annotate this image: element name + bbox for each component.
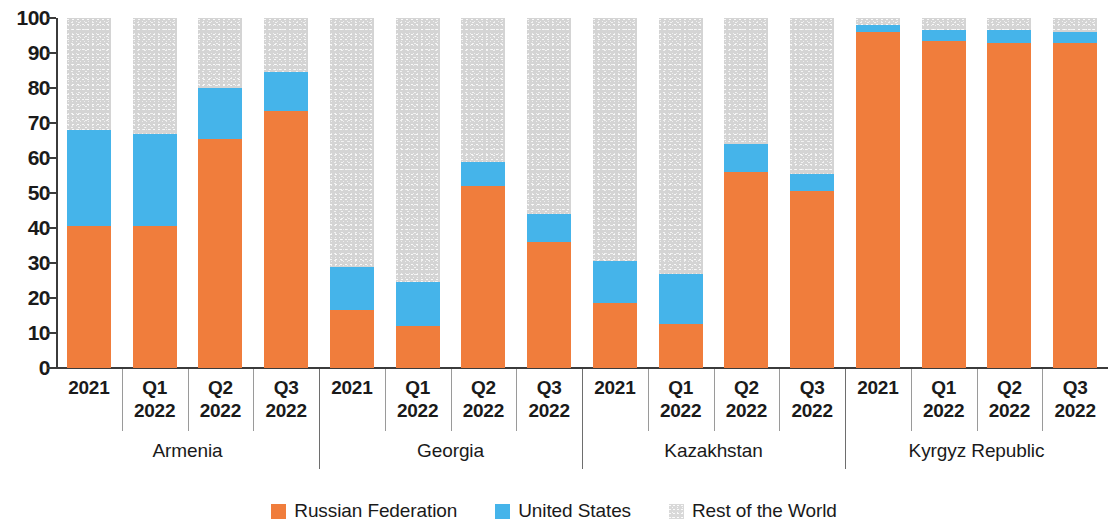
y-axis-tick-label: 90	[0, 41, 50, 65]
period-divider	[714, 369, 715, 431]
legend-item[interactable]: Russian Federation	[271, 500, 457, 522]
period-label-line1: Q1	[142, 376, 167, 399]
bar-segment-rest-of-the-world	[922, 18, 966, 30]
stacked-bar[interactable]	[856, 18, 900, 368]
bar-slot	[385, 18, 451, 368]
period-divider	[779, 369, 780, 431]
bar-segment-united-states	[724, 144, 768, 172]
bar-slot	[188, 18, 254, 368]
period-label-line2: 2022	[528, 399, 569, 422]
stacked-bar[interactable]	[659, 18, 703, 368]
y-axis-tick-mark	[47, 262, 56, 264]
period-label-line2: 2022	[397, 399, 438, 422]
bar-group-georgia	[319, 18, 582, 368]
period-label: Q22022	[977, 369, 1043, 431]
period-label-line2: 2022	[989, 399, 1030, 422]
legend-item[interactable]: Rest of the World	[669, 500, 837, 522]
bar-segment-united-states	[133, 134, 177, 227]
period-label-line1: Q2	[997, 376, 1022, 399]
bar-group-kyrgyz-republic	[845, 18, 1108, 368]
bar-slot	[911, 18, 977, 368]
stacked-bar[interactable]	[790, 18, 834, 368]
y-axis-tick-mark	[47, 297, 56, 299]
stacked-bar[interactable]	[987, 18, 1031, 368]
x-axis-country-labels: ArmeniaGeorgiaKazakhstanKyrgyz Republic	[56, 440, 1108, 478]
bar-segment-united-states	[396, 282, 440, 326]
bar-segment-rest-of-the-world	[198, 18, 242, 88]
stacked-bar[interactable]	[724, 18, 768, 368]
stacked-bar[interactable]	[461, 18, 505, 368]
period-label-line2: 2022	[265, 399, 306, 422]
period-label-line2: 2022	[134, 399, 175, 422]
period-label-line1: Q3	[274, 376, 299, 399]
period-label-line2: 2022	[791, 399, 832, 422]
y-axis-tick-mark	[47, 17, 56, 19]
bar-segment-united-states	[987, 30, 1031, 42]
period-label-line1: 2021	[68, 376, 109, 399]
y-axis-tick-mark	[47, 227, 56, 229]
period-label: 2021	[319, 369, 385, 431]
bar-slot	[1042, 18, 1108, 368]
bar-slot	[451, 18, 517, 368]
bar-slot	[845, 18, 911, 368]
period-divider	[1042, 369, 1043, 431]
bar-segment-rest-of-the-world	[987, 18, 1031, 30]
period-label-line1: Q1	[931, 376, 956, 399]
bar-segment-russian-federation	[987, 43, 1031, 369]
y-axis-tick-label: 30	[0, 251, 50, 275]
period-label: Q32022	[253, 369, 319, 431]
stacked-bar[interactable]	[133, 18, 177, 368]
bar-segment-united-states	[922, 30, 966, 41]
period-label: Q32022	[1042, 369, 1108, 431]
y-axis-tick-label: 80	[0, 76, 50, 100]
bar-segment-rest-of-the-world	[527, 18, 571, 214]
bar-slot	[516, 18, 582, 368]
stacked-bar[interactable]	[593, 18, 637, 368]
y-axis-tick-mark	[47, 157, 56, 159]
legend-swatch-icon	[669, 504, 684, 519]
stacked-bar[interactable]	[330, 18, 374, 368]
bar-group-armenia	[56, 18, 319, 368]
period-label-line1: Q3	[1063, 376, 1088, 399]
legend-item[interactable]: United States	[495, 500, 631, 522]
bar-slot	[56, 18, 122, 368]
bar-segment-united-states	[856, 25, 900, 32]
bar-segment-russian-federation	[396, 326, 440, 368]
bar-segment-russian-federation	[198, 139, 242, 368]
bar-segment-russian-federation	[1053, 43, 1097, 369]
bar-slot	[779, 18, 845, 368]
period-divider	[253, 369, 254, 431]
legend-label: Rest of the World	[692, 500, 837, 522]
bar-slot	[319, 18, 385, 368]
bar-segment-united-states	[461, 162, 505, 187]
y-axis-tick-label: 100	[0, 6, 50, 30]
bar-segment-rest-of-the-world	[593, 18, 637, 261]
bar-segment-rest-of-the-world	[133, 18, 177, 134]
period-label: Q32022	[779, 369, 845, 431]
period-label-line1: 2021	[331, 376, 372, 399]
y-axis-tick-mark	[47, 87, 56, 89]
stacked-bar[interactable]	[1053, 18, 1097, 368]
bar-segment-rest-of-the-world	[67, 18, 111, 130]
stacked-bar[interactable]	[922, 18, 966, 368]
y-axis-tick-label: 70	[0, 111, 50, 135]
bar-segment-rest-of-the-world	[724, 18, 768, 144]
period-label-line1: Q2	[734, 376, 759, 399]
y-axis-tick-label: 20	[0, 286, 50, 310]
stacked-bar[interactable]	[527, 18, 571, 368]
period-label-line1: Q3	[537, 376, 562, 399]
bar-segment-russian-federation	[790, 191, 834, 368]
stacked-bar[interactable]	[67, 18, 111, 368]
bar-segment-rest-of-the-world	[461, 18, 505, 162]
stacked-bar[interactable]	[396, 18, 440, 368]
country-label-kazakhstan: Kazakhstan	[582, 440, 845, 478]
bar-segment-united-states	[67, 130, 111, 226]
bar-segment-united-states	[330, 267, 374, 311]
period-label-line2: 2022	[1054, 399, 1095, 422]
country-label-kyrgyz-republic: Kyrgyz Republic	[845, 440, 1108, 478]
legend-swatch-icon	[271, 504, 286, 519]
stacked-bar[interactable]	[198, 18, 242, 368]
period-label-line2: 2022	[923, 399, 964, 422]
stacked-bar[interactable]	[264, 18, 308, 368]
period-label: Q12022	[648, 369, 714, 431]
